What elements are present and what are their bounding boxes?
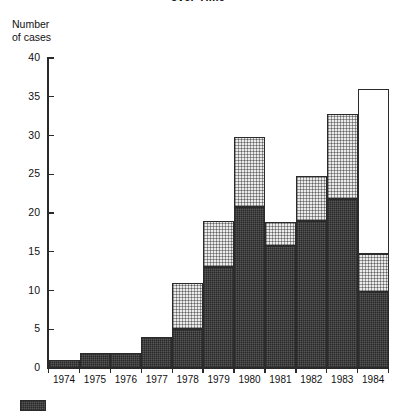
- bar-1977: [141, 337, 172, 368]
- y-tick-40: [47, 57, 54, 58]
- y-tick-label-15: 15: [0, 245, 40, 257]
- bar-1974: [49, 360, 80, 368]
- y-tick-30: [47, 135, 54, 136]
- bar-1982: [296, 176, 327, 368]
- x-tick-1974: [48, 368, 49, 373]
- bar-1976: [110, 353, 141, 369]
- x-tick-1980: [233, 368, 234, 373]
- bar-segment-1984-dark-hatched: [358, 292, 389, 368]
- y-tick-20: [47, 212, 54, 213]
- x-tick-end: [388, 368, 389, 373]
- bar-segment-1981-dotted: [265, 222, 296, 246]
- bar-1975: [80, 353, 111, 369]
- x-tick-1979: [202, 368, 203, 373]
- plot-area: 0510152025303540 19741975197619771978197…: [0, 0, 396, 411]
- x-tick-1981: [264, 368, 265, 373]
- y-tick-label-35: 35: [0, 90, 40, 102]
- y-tick-label-30: 30: [0, 129, 40, 141]
- bar-segment-1978-dotted: [172, 283, 203, 330]
- y-tick-25: [47, 174, 54, 175]
- bar-segment-1976-dark-hatched: [110, 353, 141, 369]
- y-tick-label-5: 5: [0, 322, 40, 334]
- bar-1981: [265, 222, 296, 368]
- bar-segment-1982-dark-hatched: [296, 221, 327, 368]
- bar-segment-1978-dark-hatched: [172, 329, 203, 368]
- y-tick-5: [47, 329, 54, 330]
- legend-swatch-dark-hatched: [20, 400, 46, 411]
- x-tick-label-1984: 1984: [353, 374, 393, 385]
- bar-segment-1983-dotted: [327, 114, 358, 199]
- bar-1980: [234, 137, 265, 368]
- bar-segment-1984-dotted: [358, 254, 389, 292]
- bar-segment-1977-dark-hatched: [141, 337, 172, 368]
- bar-segment-1979-dark-hatched: [203, 267, 234, 368]
- bar-segment-1981-dark-hatched: [265, 246, 296, 368]
- bar-segment-1982-dotted: [296, 176, 327, 221]
- bar-segment-1980-dotted: [234, 137, 265, 207]
- x-tick-1975: [79, 368, 80, 373]
- x-tick-1976: [110, 368, 111, 373]
- bar-segment-1983-dark-hatched: [327, 199, 358, 368]
- y-tick-10: [47, 290, 54, 291]
- y-tick-35: [47, 96, 54, 97]
- x-tick-1982: [295, 368, 296, 373]
- y-tick-label-40: 40: [0, 51, 40, 63]
- chart-root: over Time Number of cases 05101520253035…: [0, 0, 396, 411]
- bar-1984: [358, 89, 389, 368]
- bar-1983: [327, 114, 358, 368]
- bar-1978: [172, 283, 203, 368]
- bar-1979: [203, 221, 234, 368]
- y-tick-label-20: 20: [0, 206, 40, 218]
- x-tick-1977: [141, 368, 142, 373]
- bar-segment-1975-dark-hatched: [80, 353, 111, 369]
- y-tick-15: [47, 251, 54, 252]
- x-tick-1983: [326, 368, 327, 373]
- bar-segment-1980-dark-hatched: [234, 207, 265, 368]
- x-tick-1978: [172, 368, 173, 373]
- bar-segment-1974-dark-hatched: [49, 360, 80, 368]
- y-tick-label-10: 10: [0, 284, 40, 296]
- y-tick-label-25: 25: [0, 167, 40, 179]
- legend: [20, 400, 52, 411]
- bar-segment-1979-dotted: [203, 221, 234, 268]
- bar-segment-1984-open: [358, 89, 389, 254]
- y-tick-label-0: 0: [0, 361, 40, 373]
- x-tick-1984: [357, 368, 358, 373]
